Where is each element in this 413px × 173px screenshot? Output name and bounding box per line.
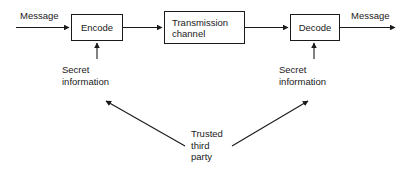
- arrow-trusted-to-secret-right: [232, 101, 308, 146]
- label-trusted-third-party: Trusted third party: [191, 128, 223, 163]
- label-secret-information-left: Secret information: [62, 64, 109, 87]
- node-encode[interactable]: Encode: [71, 14, 123, 41]
- arrow-trusted-to-secret-left: [106, 101, 185, 146]
- node-transmission-channel[interactable]: Transmission channel: [164, 11, 245, 44]
- node-decode[interactable]: Decode: [290, 14, 340, 41]
- label-message-in: Message: [20, 10, 59, 22]
- label-secret-information-right: Secret information: [279, 64, 326, 87]
- label-message-out: Message: [351, 10, 390, 22]
- diagram-canvas: Encode Transmission channel Decode Messa…: [0, 0, 413, 173]
